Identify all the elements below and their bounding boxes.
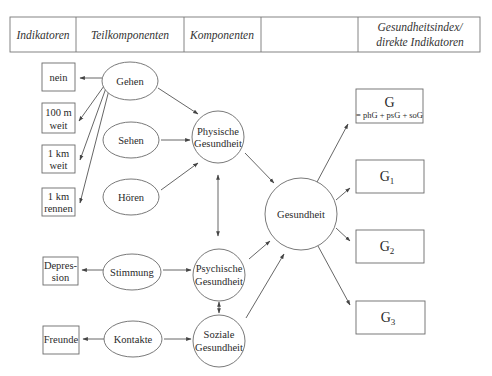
arrow-gehen-physische: [158, 88, 198, 114]
arrow-psychische-gesundheit: [249, 241, 270, 259]
arrow-hoeren-physische: [161, 163, 198, 190]
indicator-1kmweit-line2: weit: [49, 160, 67, 171]
indicator-1kmrennen-line1: 1 km: [48, 191, 69, 202]
indicator-depression-line1: Depres-: [44, 260, 78, 271]
indicator-100m-line1: 100 m: [45, 107, 72, 118]
header-gesundheitsindex-line2: direkte Indikatoren: [376, 36, 464, 48]
component-physische-line2: Gesundheit: [194, 138, 242, 149]
subcomponent-stimmung: Stimmung: [110, 267, 155, 278]
component-physische-circle: [192, 111, 244, 163]
header-table: Indikatoren Teilkomponenten Komponenten …: [10, 17, 480, 52]
component-physische-line1: Physische: [197, 126, 239, 137]
central-gesundheit: Gesundheit: [277, 209, 325, 220]
subcomponent-gehen: Gehen: [116, 76, 144, 87]
component-soziale-circle: [193, 315, 245, 367]
arrow-gesundheit-g2: [336, 228, 350, 241]
indicator-freunde: Freunde: [44, 334, 79, 345]
component-psychische-circle: [193, 249, 245, 301]
component-psychische-line1: Psychische: [196, 263, 243, 274]
index-g-label: G: [384, 95, 394, 110]
arrow-gesundheit-g: [317, 124, 348, 182]
header-teilkomponenten: Teilkomponenten: [91, 29, 169, 42]
subcomponent-kontakte: Kontakte: [114, 334, 153, 345]
health-index-diagram: Indikatoren Teilkomponenten Komponenten …: [0, 0, 492, 376]
arrow-gehen-1kmweit: [80, 88, 106, 160]
index-boxes: G = phG + psG + soG G1 G2 G3: [356, 89, 425, 334]
indicator-100m-line2: weit: [49, 120, 67, 131]
arrow-soziale-gesundheit: [246, 254, 284, 318]
central-node: Gesundheit: [265, 178, 337, 250]
indicator-1kmweit-line1: 1 km: [48, 148, 69, 159]
component-nodes: Physische Gesundheit Psychische Gesundhe…: [192, 111, 245, 367]
header-gesundheitsindex-line1: Gesundheitsindex/: [378, 21, 465, 33]
indicator-depression-line2: sion: [52, 272, 70, 283]
component-soziale-line1: Soziale: [204, 329, 235, 340]
indicator-boxes: nein 100 m weit 1 km weit 1 km rennen De…: [42, 63, 79, 354]
indicator-1kmrennen-line2: rennen: [44, 203, 73, 214]
arrow-physische-gesundheit: [245, 153, 274, 183]
arrow-gesundheit-g3: [318, 246, 350, 305]
subcomponent-sehen: Sehen: [118, 135, 144, 146]
subcomponent-hoeren: Hören: [118, 192, 145, 203]
index-g-formula: = phG + psG + soG: [356, 110, 423, 120]
indicator-nein: nein: [49, 72, 68, 83]
header-indikatoren: Indikatoren: [15, 29, 69, 41]
component-soziale-line2: Gesundheit: [195, 342, 243, 353]
subcomponent-nodes: Gehen Sehen Hören Stimmung Kontakte: [102, 62, 162, 357]
arrow-gesundheit-g1: [336, 188, 350, 200]
header-komponenten: Komponenten: [189, 29, 254, 42]
component-psychische-line2: Gesundheit: [195, 276, 243, 287]
